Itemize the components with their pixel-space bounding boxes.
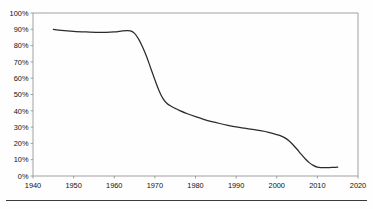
y-tick-label: 60% bbox=[14, 74, 29, 83]
y-tick-label: 90% bbox=[14, 25, 29, 34]
x-tick-label: 2000 bbox=[269, 181, 285, 190]
data-series-group bbox=[53, 29, 337, 167]
y-tick-label: 20% bbox=[14, 139, 29, 148]
y-tick-label: 0% bbox=[18, 172, 29, 181]
y-tick-label: 40% bbox=[14, 107, 29, 116]
y-tick-label: 50% bbox=[14, 90, 29, 99]
y-tick-label: 10% bbox=[14, 155, 29, 164]
y-tick-label: 80% bbox=[14, 41, 29, 50]
x-axis-tick-labels: 194019501960197019801990200020102020 bbox=[25, 181, 366, 190]
footer-divider bbox=[6, 200, 367, 201]
plot-frame bbox=[33, 13, 358, 176]
y-tick-label: 70% bbox=[14, 58, 29, 67]
y-tick-label: 30% bbox=[14, 123, 29, 132]
x-tick-label: 1950 bbox=[65, 181, 81, 190]
x-tick-label: 1980 bbox=[187, 181, 203, 190]
x-tick-label: 2010 bbox=[309, 181, 325, 190]
y-axis-tick-labels: 100%90%80%70%60%50%40%30%20%10%0% bbox=[10, 9, 29, 181]
x-tick-label: 2020 bbox=[350, 181, 366, 190]
line-chart: 100%90%80%70%60%50%40%30%20%10%0% 194019… bbox=[0, 0, 373, 209]
x-tick-label: 1940 bbox=[25, 181, 41, 190]
x-tick-label: 1970 bbox=[147, 181, 163, 190]
chart-page: 100%90%80%70%60%50%40%30%20%10%0% 194019… bbox=[0, 0, 373, 209]
series-line-share bbox=[53, 29, 337, 167]
y-tick-label: 100% bbox=[10, 9, 29, 18]
x-tick-label: 1990 bbox=[228, 181, 244, 190]
x-tick-label: 1960 bbox=[106, 181, 122, 190]
